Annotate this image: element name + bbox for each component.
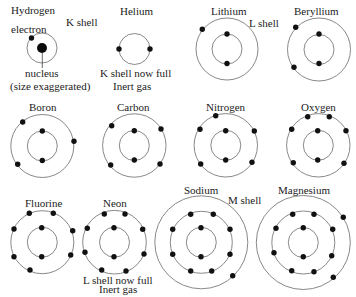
- electron-dot: [331, 275, 336, 280]
- electron-dot: [315, 157, 320, 162]
- electron-dot: [293, 25, 298, 30]
- electron-dot: [40, 158, 45, 163]
- electron-dot: [213, 113, 218, 118]
- electron-dot: [109, 123, 114, 128]
- electron-dot: [198, 225, 203, 230]
- electron-dot: [316, 61, 321, 66]
- electron-dot: [200, 27, 205, 32]
- electron-dot: [188, 268, 193, 273]
- atom-nitrogen: Nitrogen: [194, 101, 257, 177]
- electron-dot: [11, 254, 16, 259]
- electron-dot: [227, 227, 232, 232]
- electron-dot: [273, 226, 278, 231]
- electron-dot: [70, 228, 75, 233]
- electron-dot: [327, 114, 332, 119]
- atom-name-label: Helium: [120, 5, 153, 17]
- shell-l-ring: [83, 210, 147, 274]
- nucleus-dot: [37, 43, 47, 53]
- electron-dot: [85, 226, 90, 231]
- electron-dot: [311, 212, 316, 217]
- shell-k-ring: [304, 35, 334, 65]
- electron-dot: [158, 126, 163, 131]
- electron-dot: [20, 119, 25, 124]
- electron-dot: [209, 268, 214, 273]
- shell-m-ring: [256, 196, 350, 290]
- atom-name-label: Boron: [29, 101, 57, 113]
- atom-name-label: Lithium: [211, 5, 247, 17]
- electron-dot: [29, 35, 34, 40]
- atom-name-label: Hydrogen: [11, 4, 55, 16]
- electron-dot: [211, 212, 216, 217]
- electron-dot: [188, 212, 193, 217]
- electron-dot: [329, 253, 334, 258]
- electron-dot: [111, 254, 116, 259]
- atom-name-label: Beryllium: [294, 5, 339, 17]
- atom-carbon: Carbon: [103, 101, 166, 177]
- nucleus-annotation: nucleus: [25, 67, 59, 79]
- shell-k-ring: [119, 34, 150, 65]
- atom-name-label: Neon: [103, 197, 127, 209]
- shell-l-ring: [11, 115, 74, 178]
- atom-name-label: Sodium: [184, 184, 219, 196]
- electron-dot: [102, 211, 107, 216]
- electron-dot: [170, 252, 175, 257]
- atom-fluorine: Fluorine: [11, 197, 76, 274]
- electron-dot: [290, 212, 295, 217]
- electron-dot: [289, 268, 294, 273]
- shell-k-ring: [212, 34, 242, 64]
- electron-dot: [289, 127, 294, 132]
- shell-k-ring: [288, 228, 318, 258]
- electron-dot: [224, 31, 229, 36]
- atom-boron: Boron: [11, 101, 77, 178]
- helium-inert-gas-note: Inert gas: [113, 80, 151, 92]
- atom-name-label: Magnesium: [278, 184, 330, 196]
- neon-inert-gas-note: Inert gas: [99, 283, 137, 295]
- electron-dot: [15, 162, 20, 167]
- electron-dot: [223, 157, 228, 162]
- shell-l-ring: [11, 211, 74, 274]
- electron-dot: [305, 114, 310, 119]
- shell-l-ring: [287, 114, 350, 177]
- shell-k-ring: [27, 227, 57, 257]
- atom-helium: Helium: [116, 5, 153, 65]
- shell-k-ring: [27, 131, 57, 161]
- electron-dot: [315, 128, 320, 133]
- electron-dot: [341, 215, 346, 220]
- electron-dot: [316, 31, 321, 36]
- electron-shell-diagram: HydrogenHeliumLithiumBerylliumBoronCarbo…: [0, 0, 356, 297]
- helium-k-shell-full-note: K shell now full: [100, 67, 171, 79]
- electron-dot: [27, 267, 32, 272]
- electron-dot: [223, 128, 228, 133]
- electron-dot: [132, 157, 137, 162]
- atom-name-label: Carbon: [117, 101, 150, 113]
- l-shell-annotation: L shell: [249, 17, 279, 29]
- shell-k-ring: [211, 130, 241, 160]
- shell-k-ring: [303, 130, 333, 160]
- electron-dot: [108, 162, 113, 167]
- electron-dot: [330, 227, 335, 232]
- electron-dot: [122, 211, 127, 216]
- electron-dot: [198, 254, 203, 259]
- k-shell-annotation: K shell: [66, 16, 97, 28]
- atom-name-label: Fluorine: [25, 197, 62, 209]
- electron-dot: [147, 46, 152, 51]
- electron-annotation: electron: [11, 23, 47, 35]
- electron-dot: [197, 127, 202, 132]
- electron-dot: [157, 161, 162, 166]
- electron-dot: [343, 128, 348, 133]
- shell-k-ring: [100, 227, 130, 257]
- electron-dot: [68, 252, 73, 257]
- electron-dot: [39, 254, 44, 259]
- atom-neon: Neon: [82, 197, 146, 274]
- electron-dot: [224, 61, 229, 66]
- size-note-annotation: (size exaggerated): [10, 80, 91, 93]
- electron-dot: [141, 251, 146, 256]
- shell-l-ring: [272, 211, 335, 274]
- atom-name-label: Oxygen: [301, 101, 336, 113]
- diagram-svg: HydrogenHeliumLithiumBerylliumBoronCarbo…: [0, 0, 356, 297]
- electron-dot: [116, 46, 121, 51]
- electron-dot: [341, 161, 346, 166]
- electron-dot: [71, 139, 76, 144]
- shell-k-ring: [186, 227, 216, 257]
- electron-dot: [132, 128, 137, 133]
